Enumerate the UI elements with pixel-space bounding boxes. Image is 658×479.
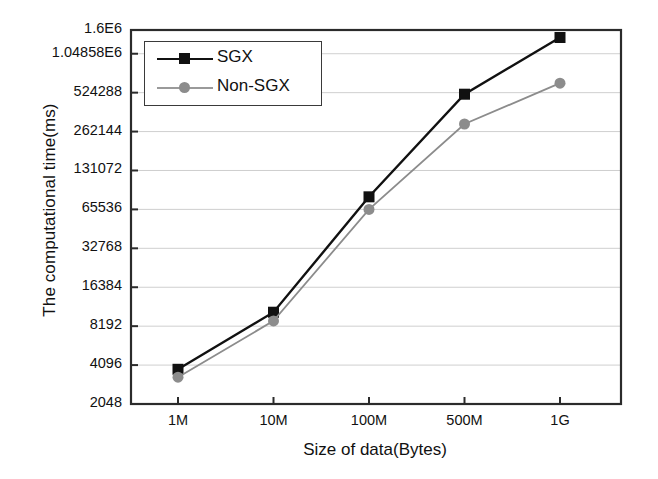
legend-item-non-sgx: Non-SGX [153,74,318,102]
legend-circle-marker-icon [179,82,190,93]
chart-figure: The computational time(ms) 2048409681921… [0,0,658,479]
data-point-sgx-100M [364,191,375,202]
plot-area [0,0,658,479]
x-axis-title: Size of data(Bytes) [130,440,620,460]
data-point-non-sgx-100M [364,204,375,215]
legend-label: SGX [217,47,253,67]
legend-square-marker-icon [179,53,190,64]
x-tick-label: 100M [324,412,414,428]
legend-item-sgx: SGX [153,45,318,73]
series-line-non-sgx [178,83,560,377]
legend-label: Non-SGX [217,76,290,96]
x-tick-label: 500M [420,412,510,428]
data-point-non-sgx-1M [173,372,184,383]
data-point-sgx-500M [459,89,470,100]
data-point-non-sgx-500M [459,118,470,129]
legend: SGX Non-SGX [144,41,322,106]
x-tick-label: 1M [133,412,223,428]
data-point-non-sgx-1G [555,78,566,89]
x-tick-label: 10M [229,412,319,428]
x-tick-label: 1G [515,412,605,428]
data-point-non-sgx-10M [268,315,279,326]
data-point-sgx-1G [555,32,566,43]
